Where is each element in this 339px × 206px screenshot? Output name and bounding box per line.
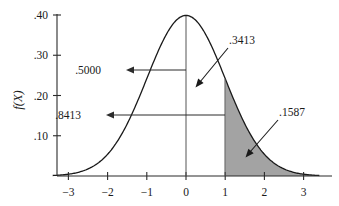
x-tick-label: −1 [141, 186, 153, 198]
pointer-line-1587 [250, 120, 278, 152]
arrowhead-8413-icon [106, 112, 114, 119]
chart-canvas: .40.30.20.10 −3−2−10123 f(X) .5000 .8413… [0, 0, 339, 206]
y-axis-title: f(X) [11, 90, 25, 109]
annotation-label-3413: .3413 [229, 34, 255, 46]
normal-distribution-chart: .40.30.20.10 −3−2−10123 f(X) .5000 .8413… [0, 0, 339, 206]
annotation-label-5000: .5000 [75, 64, 101, 76]
x-tick-label: 3 [301, 186, 307, 198]
y-tick-label: .20 [34, 90, 49, 102]
x-tick-label: 1 [222, 186, 228, 198]
x-tick-label: 2 [262, 186, 268, 198]
y-tick-label: .30 [34, 49, 49, 61]
arrowhead-5000-icon [126, 67, 134, 74]
annotation-label-8413: .8413 [55, 109, 81, 121]
x-tick-label: −2 [101, 186, 113, 198]
y-tick-label: .40 [34, 9, 49, 21]
annotation-label-1587: .1587 [279, 106, 305, 118]
x-tick-label: 0 [183, 186, 189, 198]
x-tick-label: −3 [62, 186, 74, 198]
y-tick-label: .10 [34, 130, 49, 142]
